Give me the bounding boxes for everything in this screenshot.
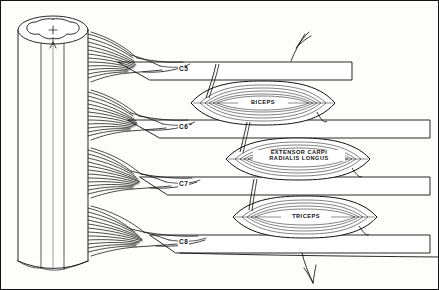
nerve-root-label-c6: C6 (178, 124, 189, 131)
spinal-cord-body (18, 16, 88, 270)
muscle-label-extensor-carpi-radialis-longus: EXTENSOR CARPI RADIALIS LONGUS (253, 150, 345, 161)
figure-canvas: C5 C6 C7 C8 BICEPS EXTENSOR CARPI RADIAL… (0, 0, 439, 290)
muscle-label-ecrl-line2: RADIALIS LONGUS (253, 156, 345, 162)
muscle-label-biceps: BICEPS (238, 100, 288, 106)
muscle-label-triceps: TRICEPS (281, 214, 331, 220)
anatomy-illustration (0, 0, 439, 290)
nerve-root-label-c5: C5 (178, 66, 189, 73)
nerve-root-label-c8: C8 (178, 239, 189, 246)
nerve-root-label-c7: C7 (178, 181, 189, 188)
muscle-label-biceps-line1: BICEPS (238, 100, 288, 106)
muscle-label-triceps-line1: TRICEPS (281, 214, 331, 220)
